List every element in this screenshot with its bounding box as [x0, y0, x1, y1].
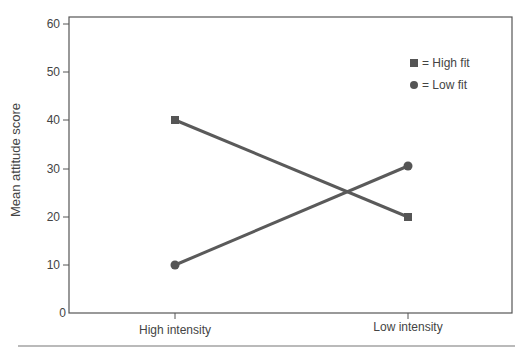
x-axis: [175, 313, 408, 319]
y-tick-50: 50: [47, 65, 61, 79]
marker-square-high-fit-low-intensity: [404, 213, 412, 221]
marker-circle-low-fit-high-intensity: [171, 261, 180, 270]
legend-circle-icon: [410, 81, 418, 89]
y-tick-10: 10: [47, 258, 61, 272]
x-tick-low-intensity: Low intensity: [373, 320, 442, 334]
y-axis-title: Mean attitude score: [8, 103, 23, 217]
marker-square-high-fit-high-intensity: [171, 116, 179, 124]
legend-low-fit: = Low fit: [422, 78, 468, 92]
marker-circle-low-fit-low-intensity: [404, 162, 413, 171]
legend-square-icon: [410, 59, 418, 67]
y-tick-20: 20: [47, 210, 61, 224]
y-tick-40: 40: [47, 113, 61, 127]
y-tick-0: 0: [59, 306, 66, 320]
legend-high-fit: = High fit: [422, 56, 470, 70]
series-low-fit-line: [175, 166, 408, 265]
series-high-fit-line: [175, 120, 408, 217]
y-tick-60: 60: [47, 17, 61, 31]
y-axis: [63, 24, 69, 265]
line-chart: 60 50 40 30 20 10 0 Mean attitude score …: [0, 0, 527, 352]
y-tick-30: 30: [47, 162, 61, 176]
x-tick-high-intensity: High intensity: [139, 323, 211, 337]
legend: = High fit = Low fit: [410, 56, 470, 92]
